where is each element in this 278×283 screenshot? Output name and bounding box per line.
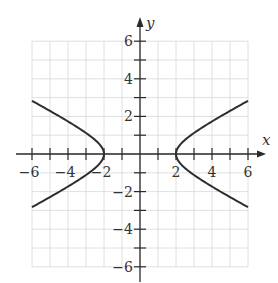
y-tick-label: −2 (112, 184, 133, 200)
x-tick-label: −4 (55, 164, 76, 180)
y-axis-label: y (145, 14, 155, 32)
y-tick-label: 6 (124, 33, 133, 49)
x-axis-label: x (262, 131, 271, 149)
x-tick-label: 4 (208, 164, 217, 180)
y-axis-arrow-icon (137, 17, 144, 27)
x-axis-arrow-icon (257, 151, 266, 158)
hyperbola-graph: −6−4−2246642−2−4−6 x y (0, 0, 278, 283)
y-tick-label: −4 (112, 221, 133, 237)
y-tick-label: 2 (124, 108, 133, 124)
y-tick-label: −6 (112, 259, 133, 275)
y-tick-label: 4 (124, 71, 133, 87)
x-tick-label: −2 (91, 164, 112, 180)
x-tick-label: 6 (244, 164, 253, 180)
x-tick-label: −6 (19, 164, 40, 180)
x-tick-label: 2 (172, 164, 181, 180)
axes (16, 17, 266, 282)
